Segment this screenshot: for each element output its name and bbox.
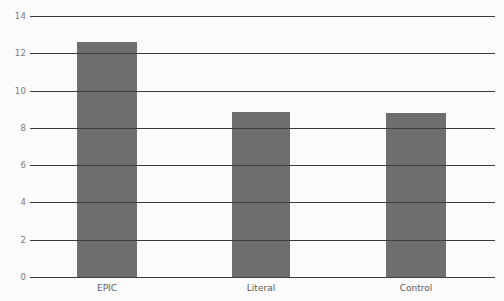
y-tick-label-14: 14 [2, 12, 26, 21]
bar-epic [77, 42, 137, 277]
gridline-14 [30, 16, 495, 17]
y-tick-label-8: 8 [2, 124, 26, 133]
bar-control [386, 113, 446, 277]
x-tick-label-control: Control [400, 284, 433, 293]
bar-literal [232, 112, 290, 277]
x-axis-line [30, 277, 495, 278]
gridline-2 [30, 240, 495, 241]
bar-chart: 02468101214 EPICLiteralControl [0, 0, 504, 301]
x-tick-label-epic: EPIC [97, 284, 117, 293]
y-tick-label-12: 12 [2, 49, 26, 58]
gridline-6 [30, 165, 495, 166]
y-tick-label-4: 4 [2, 198, 26, 207]
gridline-4 [30, 202, 495, 203]
y-tick-label-2: 2 [2, 236, 26, 245]
y-tick-label-6: 6 [2, 161, 26, 170]
y-tick-label-10: 10 [2, 87, 26, 96]
gridline-10 [30, 91, 495, 92]
y-tick-label-0: 0 [2, 273, 26, 282]
x-tick-label-literal: Literal [247, 284, 275, 293]
gridline-12 [30, 53, 495, 54]
gridline-8 [30, 128, 495, 129]
plot-area: 02468101214 EPICLiteralControl [0, 0, 504, 301]
